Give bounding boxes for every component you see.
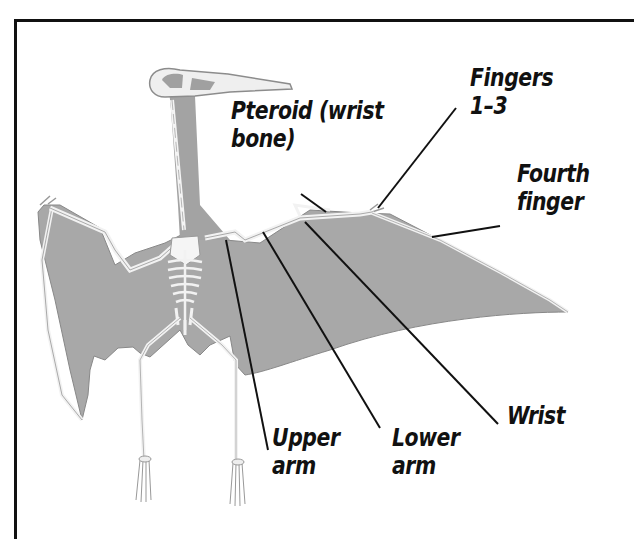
fingers-1-3 [370, 204, 384, 212]
label-lower-arm: Lower arm [392, 424, 460, 480]
label-pteroid-line2: bone) [231, 125, 383, 153]
label-fourth-finger-line1: Fourth [517, 160, 590, 188]
right-foot [230, 459, 245, 506]
label-upper-arm-line2: arm [272, 452, 340, 480]
label-pteroid: Pteroid (wrist bone) [231, 97, 383, 153]
left-claws [40, 196, 56, 205]
label-wrist-line1: Wrist [507, 402, 565, 430]
left-foot [136, 456, 151, 502]
leader-pteroid [301, 194, 326, 212]
leader-fingers [378, 108, 456, 208]
label-fourth-finger: Fourth finger [517, 160, 590, 216]
label-wrist: Wrist [507, 402, 565, 430]
label-fingers-line2: 1–3 [470, 92, 553, 120]
label-upper-arm-line1: Upper [272, 424, 340, 452]
label-lower-arm-line2: arm [392, 452, 460, 480]
leader-fourth-finger [432, 226, 500, 237]
label-fingers: Fingers 1–3 [470, 64, 553, 120]
label-fourth-finger-line2: finger [517, 188, 590, 216]
label-upper-arm: Upper arm [272, 424, 340, 480]
label-pteroid-line1: Pteroid (wrist [231, 97, 383, 125]
label-fingers-line1: Fingers [470, 64, 553, 92]
label-lower-arm-line1: Lower [392, 424, 460, 452]
